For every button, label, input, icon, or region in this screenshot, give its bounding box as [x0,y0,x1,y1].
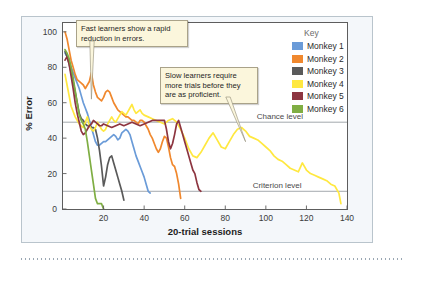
legend-title: Key [304,28,366,38]
x-tick-80: 80 [213,213,237,223]
bottom-dotted-rule [21,258,402,260]
y-tick-100: 100 [35,27,57,37]
x-axis-title: 20-trial sessions [62,226,348,237]
x-tick-120: 120 [294,213,318,223]
legend-swatch-icon-monkey-6 [292,105,303,113]
legend-item-monkey-4[interactable]: Monkey 4 [292,78,366,91]
x-tick-40: 40 [132,213,156,223]
legend-swatch-icon-monkey-3 [292,67,303,75]
slow-learners-callout: Slow learners require more trials before… [160,67,258,104]
figure-root: % Error 020406080100 20406080100120140 2… [0,0,422,283]
x-tick-20: 20 [92,213,116,223]
legend-item-monkey-1[interactable]: Monkey 1 [292,40,366,53]
legend-items: Monkey 1Monkey 2Monkey 3Monkey 4Monkey 5… [292,40,366,115]
legend-item-monkey-2[interactable]: Monkey 2 [292,53,366,66]
legend-item-monkey-6[interactable]: Monkey 6 [292,103,366,116]
legend: Key Monkey 1Monkey 2Monkey 3Monkey 4Monk… [292,28,366,115]
legend-label-monkey-4: Monkey 4 [307,79,344,89]
y-tick-60: 60 [35,98,57,108]
legend-swatch-icon-monkey-4 [292,80,303,88]
y-axis-title: % Error [23,90,34,138]
y-tick-20: 20 [35,169,57,179]
x-tick-100: 100 [254,213,278,223]
legend-swatch-icon-monkey-5 [292,92,303,100]
fast-learners-callout: Fast learners show a rapid reduction in … [76,20,188,47]
criterion-level-label: Criterion level [252,181,303,190]
y-tick-80: 80 [35,62,57,72]
legend-label-monkey-6: Monkey 6 [307,104,344,114]
x-tick-140: 140 [335,213,359,223]
y-tick-0: 0 [35,204,57,214]
legend-swatch-icon-monkey-1 [292,42,303,50]
legend-label-monkey-1: Monkey 1 [307,41,344,51]
legend-swatch-icon-monkey-2 [292,55,303,63]
x-tick-60: 60 [173,213,197,223]
legend-label-monkey-2: Monkey 2 [307,54,344,64]
legend-label-monkey-5: Monkey 5 [307,91,344,101]
legend-item-monkey-3[interactable]: Monkey 3 [292,65,366,78]
legend-item-monkey-5[interactable]: Monkey 5 [292,90,366,103]
series-line-2 [65,32,181,199]
y-tick-40: 40 [35,133,57,143]
legend-label-monkey-3: Monkey 3 [307,66,344,76]
